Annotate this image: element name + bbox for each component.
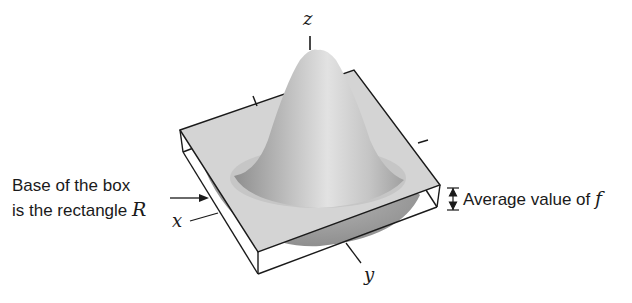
rectangle-symbol: R: [132, 198, 146, 220]
base-arrow: [170, 194, 209, 202]
base-annotation-line2: is the rectangle R: [12, 199, 146, 221]
base-annotation-line1: Base of the box: [12, 176, 146, 196]
average-height-marker: [447, 188, 459, 210]
y-axis-label: y: [364, 264, 374, 285]
y-axis-leader: [346, 243, 361, 263]
y-axis-back-tick: [418, 140, 428, 143]
average-value-diagram: z x y Base of the box is the rectangle R…: [0, 0, 632, 303]
average-annotation-text: Average value of: [463, 190, 595, 209]
average-annotation: Average value of f: [463, 188, 602, 210]
x-axis-label: x: [172, 210, 182, 231]
x-axis-leader: [190, 213, 218, 221]
base-annotation: Base of the box is the rectangle R: [12, 176, 146, 221]
base-annotation-text: is the rectangle: [12, 201, 132, 220]
z-axis-label: z: [303, 8, 312, 29]
function-symbol: f: [595, 187, 602, 209]
diagram-graphics: [0, 0, 632, 303]
